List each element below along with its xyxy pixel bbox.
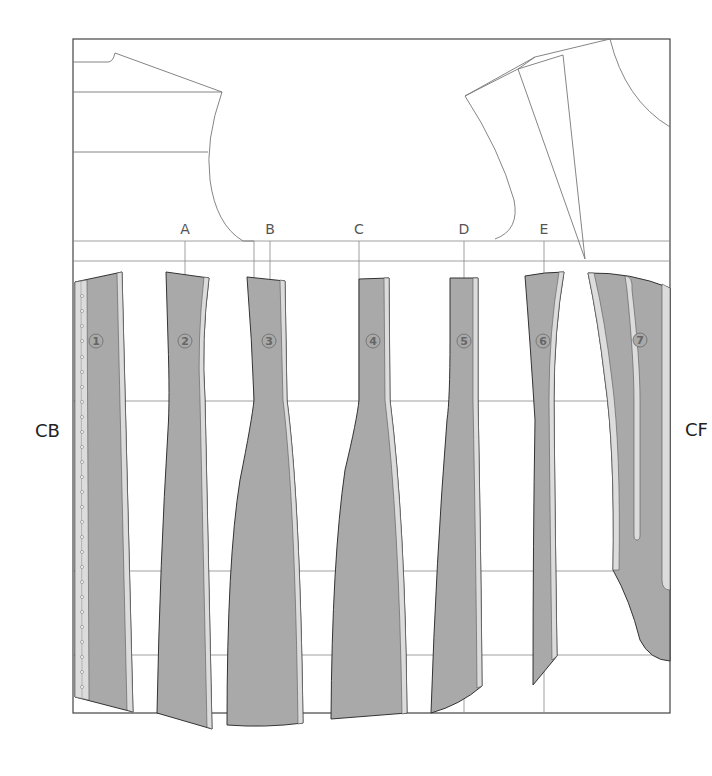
back-bodice-block — [73, 53, 254, 241]
panel-number-7: 7 — [633, 333, 647, 347]
center-front-label: CF — [685, 419, 708, 440]
column-label-a: A — [180, 221, 190, 237]
svg-text:5: 5 — [460, 335, 468, 348]
svg-text:6: 6 — [539, 335, 547, 348]
column-label-b: B — [265, 221, 275, 237]
column-label-e: E — [540, 221, 549, 237]
panel-7[interactable] — [588, 273, 670, 661]
column-label-c: C — [354, 221, 364, 237]
svg-text:1: 1 — [92, 335, 100, 348]
front-bodice-block — [465, 39, 670, 259]
svg-text:4: 4 — [369, 335, 377, 348]
panel-5[interactable] — [431, 278, 482, 713]
svg-text:7: 7 — [636, 334, 644, 347]
svg-text:2: 2 — [181, 335, 189, 348]
center-back-label: CB — [35, 420, 60, 441]
svg-text:3: 3 — [265, 335, 273, 348]
column-label-d: D — [459, 221, 470, 237]
corset-pattern-diagram: 1 2 3 4 5 6 7 — [0, 0, 712, 776]
